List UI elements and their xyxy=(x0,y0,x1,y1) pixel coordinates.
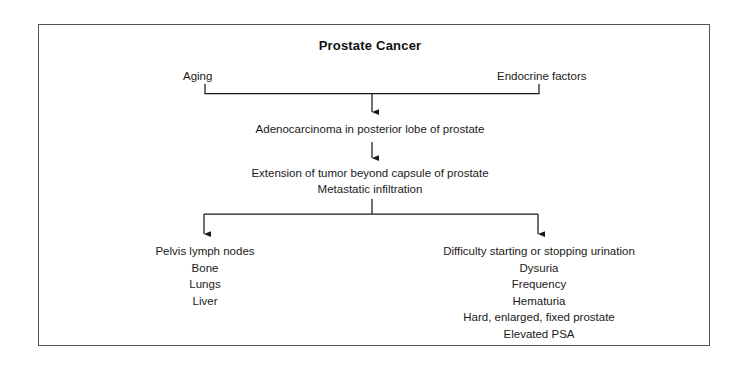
top-bracket-connector xyxy=(205,84,539,94)
flow-connectors xyxy=(0,0,740,370)
